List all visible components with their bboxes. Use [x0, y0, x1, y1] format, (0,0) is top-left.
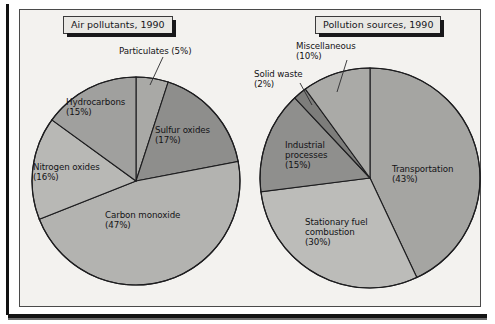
labels-overlay: Air pollutants, 1990Particulates (5%)Sul… [19, 9, 481, 307]
title-shadow-bottom [319, 33, 444, 37]
figure-canvas: Air pollutants, 1990Particulates (5%)Sul… [0, 0, 495, 324]
title-shadow-bottom [67, 33, 176, 37]
chart-title-air-pollutants: Air pollutants, 1990 [63, 16, 173, 34]
chart-title-pollution-sources: Pollution sources, 1990 [315, 16, 441, 34]
slice-label-sulfur-oxides: Sulfur oxides (17%) [155, 126, 210, 146]
slice-label-hydrocarbons: Hydrocarbons (15%) [66, 98, 125, 118]
slice-label-transportation: Transportation (43%) [392, 165, 453, 185]
slice-label-industrial-processes: Industrial processes (15%) [285, 141, 327, 170]
chart-title-text: Pollution sources, 1990 [323, 19, 433, 30]
slice-label-particulates: Particulates (5%) [119, 47, 191, 57]
slice-label-carbon-monoxide: Carbon monoxide (47%) [105, 211, 180, 231]
slice-label-stationary-fuel: Stationary fuel combustion (30%) [305, 218, 368, 247]
slice-label-nitrogen-oxides: Nitrogen oxides (16%) [33, 163, 100, 183]
slice-label-solid-waste: Solid waste (2%) [254, 70, 303, 90]
chart-title-text: Air pollutants, 1990 [71, 19, 165, 30]
slice-label-miscellaneous: Miscellaneous (10%) [296, 42, 356, 62]
